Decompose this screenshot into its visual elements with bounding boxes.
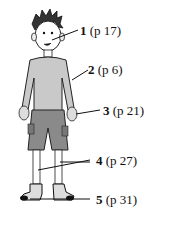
callout-number: 5 — [96, 192, 103, 207]
callout-5: 5 (p 31) — [96, 193, 137, 206]
page-reference: (p 6) — [98, 62, 123, 77]
callout-3: 3 (p 21) — [103, 104, 144, 117]
page-reference: (p 27) — [106, 153, 137, 168]
callout-number: 3 — [103, 103, 110, 118]
page-reference: (p 31) — [106, 192, 137, 207]
page-reference: (p 17) — [90, 23, 121, 38]
callout-number: 4 — [96, 153, 103, 168]
callout-2: 2 (p 6) — [88, 63, 123, 76]
page-reference: (p 21) — [113, 103, 144, 118]
callout-1: 1 (p 17) — [80, 24, 121, 37]
callout-number: 1 — [80, 23, 87, 38]
callout-number: 2 — [88, 62, 95, 77]
callout-4: 4 (p 27) — [96, 154, 137, 167]
